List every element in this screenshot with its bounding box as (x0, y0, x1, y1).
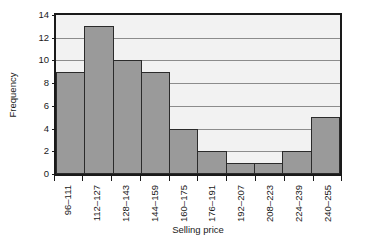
x-label-cell: 96–111 (54, 183, 83, 227)
histogram-bar[interactable] (226, 163, 255, 174)
x-tick-label: 240–255 (323, 185, 333, 222)
x-tick-cell (313, 176, 342, 182)
x-tick-cell (169, 176, 198, 182)
x-tick-mark (82, 176, 83, 181)
x-tick-cell (284, 176, 313, 182)
histogram-bar[interactable] (197, 151, 226, 174)
histogram-figure: Frequency 02468101214 96–111112–127128–1… (0, 0, 370, 240)
x-tick-mark (140, 176, 141, 181)
x-tick-cell (112, 176, 141, 182)
x-tick-label: 96–111 (64, 185, 74, 215)
x-tick-cell (198, 176, 227, 182)
x-tick-mark (341, 176, 342, 181)
x-tick-label: 112–127 (92, 185, 102, 221)
x-tick-label: 128–143 (121, 185, 131, 222)
x-tick-label: 144–159 (150, 185, 160, 222)
histogram-bar[interactable] (84, 26, 113, 174)
x-tick-cell (227, 176, 256, 182)
y-tick-label: 12 (38, 33, 49, 43)
x-label-cell: 128–143 (112, 183, 141, 227)
y-tick-label: 10 (38, 56, 49, 66)
histogram-bar[interactable] (169, 129, 198, 174)
x-tick-mark (111, 176, 112, 181)
y-tick-label: 0 (44, 169, 49, 179)
x-tick-cell (54, 176, 83, 182)
histogram-bar[interactable] (113, 60, 142, 174)
x-tick-label: 224–239 (294, 185, 304, 222)
x-tick-mark (54, 176, 55, 181)
y-axis-title: Frequency (7, 72, 18, 117)
x-label-cell: 240–255 (313, 183, 342, 227)
histogram-bar[interactable] (254, 163, 283, 174)
x-label-cell: 112–127 (83, 183, 112, 227)
x-tick-label: 176–191 (208, 185, 218, 222)
y-tick-label: 4 (44, 124, 49, 134)
y-axis-title-wrapper: Frequency (0, 13, 26, 176)
x-tick-cell (256, 176, 285, 182)
x-axis-tick-labels: 96–111112–127128–143144–159160–175176–19… (54, 183, 342, 227)
x-axis-title: Selling price (54, 224, 342, 235)
x-tick-mark (226, 176, 227, 181)
histogram-bar[interactable] (141, 72, 170, 174)
x-tick-mark (197, 176, 198, 181)
x-label-cell: 224–239 (284, 183, 313, 227)
y-tick-label: 6 (44, 101, 49, 111)
x-label-cell: 160–175 (169, 183, 198, 227)
x-label-cell: 208–223 (256, 183, 285, 227)
y-tick-mark (52, 174, 56, 175)
plot-area: 02468101214 (54, 13, 342, 176)
x-tick-mark (313, 176, 314, 181)
x-tick-label: 208–223 (265, 185, 275, 222)
y-tick-label: 14 (38, 10, 49, 20)
x-tick-mark (284, 176, 285, 181)
x-tick-label: 192–207 (236, 185, 246, 222)
x-tick-mark (255, 176, 256, 181)
x-tick-cell (83, 176, 112, 182)
bar-series (56, 15, 340, 174)
histogram-bar[interactable] (311, 117, 340, 174)
y-tick-label: 8 (44, 78, 49, 88)
x-tick-mark (169, 176, 170, 181)
x-tick-cell (140, 176, 169, 182)
x-label-cell: 144–159 (140, 183, 169, 227)
x-tick-label: 160–175 (179, 185, 189, 222)
x-label-cell: 192–207 (227, 183, 256, 227)
histogram-bar[interactable] (282, 151, 311, 174)
x-axis-ticks (54, 176, 342, 182)
y-tick-label: 2 (44, 147, 49, 157)
x-label-cell: 176–191 (198, 183, 227, 227)
histogram-bar[interactable] (56, 72, 85, 174)
